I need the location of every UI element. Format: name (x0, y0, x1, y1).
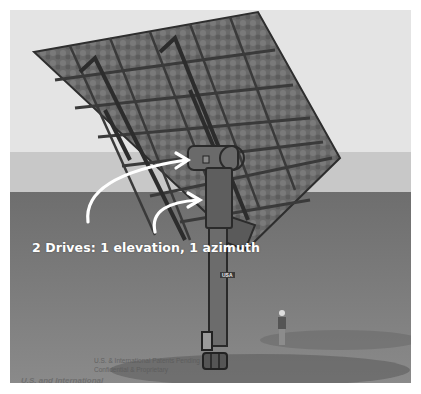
watermark-corner: U.S. and International Patents Pending (21, 376, 103, 383)
azimuth-drive (206, 168, 232, 228)
tracker-illustration: 2 Drives: 1 elevation, 1 azimuth USA U.S… (10, 10, 411, 383)
watermark-center-line2: Confidential & Proprietary (94, 365, 200, 374)
pole-label: USA (220, 272, 235, 278)
watermark-center-line1: U.S. & International Patents Pending (94, 356, 200, 365)
watermark-center: U.S. & International Patents Pending Con… (94, 356, 200, 374)
elevation-drive (188, 146, 244, 170)
scene-svg (10, 10, 411, 383)
drives-callout: 2 Drives: 1 elevation, 1 azimuth (32, 240, 260, 255)
watermark-corner-line1: U.S. and International (21, 376, 103, 383)
